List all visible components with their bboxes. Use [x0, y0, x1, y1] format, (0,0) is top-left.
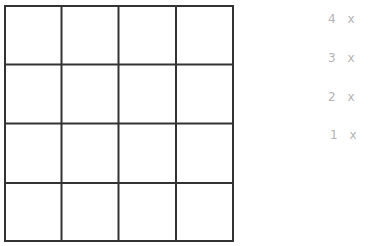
- row-labels: 4 x 3 x 2 x 1 x: [0, 0, 371, 246]
- row-label-3: 3 x: [328, 51, 359, 65]
- row-label-2: 2 x: [328, 90, 359, 104]
- row-label-1: 1 x: [330, 128, 361, 142]
- row-label-4: 4 x: [328, 12, 359, 26]
